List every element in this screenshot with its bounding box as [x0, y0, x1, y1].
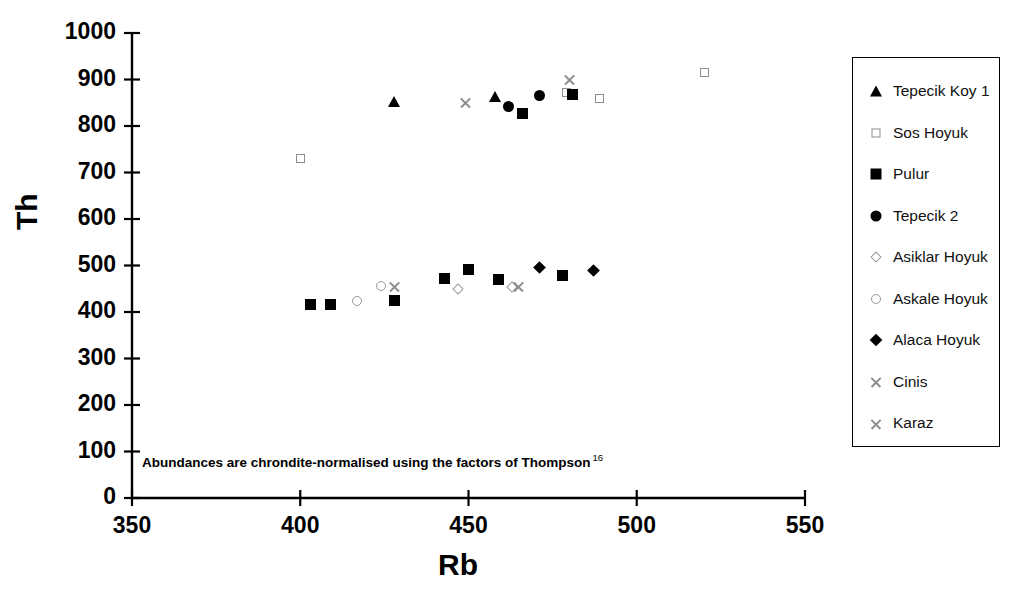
legend-item-sos-hoyuk[interactable]: Sos Hoyuk	[867, 122, 968, 144]
legend-item-karaz[interactable]: Karaz	[867, 412, 934, 434]
legend-marker-icon	[867, 124, 885, 142]
cross-icon	[870, 375, 883, 388]
legend-item-label: Pulur	[893, 165, 929, 183]
y-axis-title: Th	[10, 193, 44, 230]
x-tick-label: 450	[429, 512, 509, 539]
open-diamond-icon	[870, 251, 881, 262]
open-circle-icon	[871, 294, 881, 304]
legend-item-askale-hoyuk[interactable]: Askale Hoyuk	[867, 288, 988, 310]
y-tick-label: 400	[36, 297, 116, 324]
filled-diamond-icon	[870, 334, 883, 347]
chart-annotation: Abundances are chrondite-normalised usin…	[142, 452, 603, 470]
annotation-superscript: 16	[593, 452, 604, 463]
legend-item-tepecik-koy-1[interactable]: Tepecik Koy 1	[867, 80, 990, 102]
y-tick-label: 200	[36, 390, 116, 417]
legend-item-label: Cinis	[893, 373, 927, 391]
annotation-text: Abundances are chrondite-normalised usin…	[142, 455, 591, 470]
y-tick-label: 500	[36, 251, 116, 278]
y-tick-label: 700	[36, 158, 116, 185]
scatter-chart: 01002003004005006007008009001000 3504004…	[0, 0, 1022, 609]
legend-item-asiklar-hoyuk[interactable]: Asiklar Hoyuk	[867, 246, 988, 268]
legend-marker-icon	[867, 331, 885, 349]
x-tick-label: 400	[260, 512, 340, 539]
x-tick-label: 350	[92, 512, 172, 539]
legend-marker-icon	[867, 248, 885, 266]
x-tick-label: 550	[765, 512, 845, 539]
y-tick-label: 300	[36, 344, 116, 371]
legend-marker-icon	[867, 165, 885, 183]
cross-icon	[870, 417, 883, 430]
x-axis-title: Rb	[438, 548, 478, 582]
y-tick-label: 900	[36, 65, 116, 92]
y-tick-label: 100	[36, 437, 116, 464]
legend-marker-icon	[867, 290, 885, 308]
legend-marker-icon	[867, 373, 885, 391]
y-tick-label: 0	[36, 483, 116, 510]
legend-item-label: Karaz	[893, 414, 934, 432]
legend-item-cinis[interactable]: Cinis	[867, 371, 927, 393]
x-tick-label: 500	[597, 512, 677, 539]
legend-item-label: Alaca Hoyuk	[893, 331, 980, 349]
open-square-icon	[872, 128, 881, 137]
filled-square-icon	[871, 169, 882, 180]
legend-item-pulur[interactable]: Pulur	[867, 163, 929, 185]
y-tick-label: 1000	[36, 18, 116, 45]
legend-item-label: Tepecik Koy 1	[893, 82, 990, 100]
legend-item-label: Askale Hoyuk	[893, 290, 988, 308]
chart-legend: Tepecik Koy 1Sos HoyukPulurTepecik 2Asik…	[852, 57, 1000, 447]
legend-marker-icon	[867, 207, 885, 225]
legend-item-label: Tepecik 2	[893, 207, 958, 225]
y-tick-label: 600	[36, 204, 116, 231]
legend-marker-icon	[867, 82, 885, 100]
legend-item-label: Sos Hoyuk	[893, 124, 968, 142]
filled-circle-icon	[871, 210, 882, 221]
y-tick-label: 800	[36, 111, 116, 138]
legend-marker-icon	[867, 414, 885, 432]
legend-item-alaca-hoyuk[interactable]: Alaca Hoyuk	[867, 329, 980, 351]
legend-item-label: Asiklar Hoyuk	[893, 248, 988, 266]
filled-triangle-icon	[870, 86, 882, 97]
legend-item-tepecik-2[interactable]: Tepecik 2	[867, 205, 958, 227]
